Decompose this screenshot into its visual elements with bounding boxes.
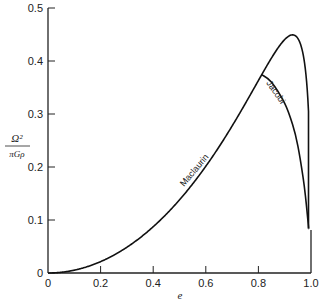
x-ticks: 00.20.40.60.81.0 (45, 266, 319, 289)
y-tick-label: 0.1 (28, 214, 43, 226)
x-axis-label: e (178, 289, 183, 301)
x-tick-label: 1.0 (303, 277, 318, 289)
x-tick-label: 0.6 (198, 277, 213, 289)
y-tick-label: 0.5 (28, 2, 43, 14)
y-tick-label: 0.3 (28, 108, 43, 120)
chart: 00.10.20.30.40.5 00.20.40.60.81.0 Maclau… (0, 0, 322, 304)
jacobi-label: Jacobi (264, 78, 287, 105)
y-axis-label-denominator: πGρ (9, 149, 25, 159)
x-tick-label: 0.8 (251, 277, 266, 289)
y-tick-label: 0 (37, 267, 43, 279)
y-tick-label: 0.2 (28, 161, 43, 173)
y-ticks: 00.10.20.30.40.5 (28, 2, 55, 279)
maclaurin-curve (48, 35, 309, 273)
y-axis-label: Ω² πGρ (5, 132, 30, 159)
y-axis-label-numerator: Ω² (11, 132, 23, 144)
y-tick-label: 0.4 (28, 55, 43, 67)
x-tick-label: 0.2 (93, 277, 108, 289)
x-tick-label: 0.4 (146, 277, 161, 289)
x-tick-label: 0 (45, 277, 51, 289)
